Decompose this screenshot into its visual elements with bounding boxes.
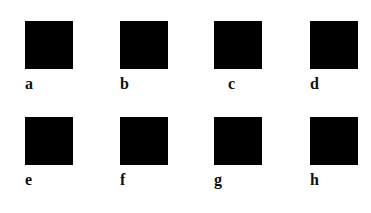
panel-label-h: h [310, 172, 319, 188]
panel-label-e: e [25, 172, 32, 188]
panel-label-f: f [120, 172, 125, 188]
panel-swatch-c [214, 21, 262, 69]
panel-label-c: c [228, 76, 235, 92]
panel-label-b: b [120, 76, 129, 92]
panel-label-d: d [310, 76, 319, 92]
panel-swatch-g [214, 117, 262, 165]
panel-swatch-e [25, 117, 73, 165]
figure-panel-grid: a b c d e f g h [0, 0, 371, 213]
panel-swatch-h [310, 117, 358, 165]
panel-swatch-d [310, 21, 358, 69]
panel-swatch-f [120, 117, 168, 165]
panel-swatch-b [120, 21, 168, 69]
panel-label-a: a [25, 76, 33, 92]
panel-swatch-a [25, 21, 73, 69]
panel-label-g: g [214, 172, 222, 188]
